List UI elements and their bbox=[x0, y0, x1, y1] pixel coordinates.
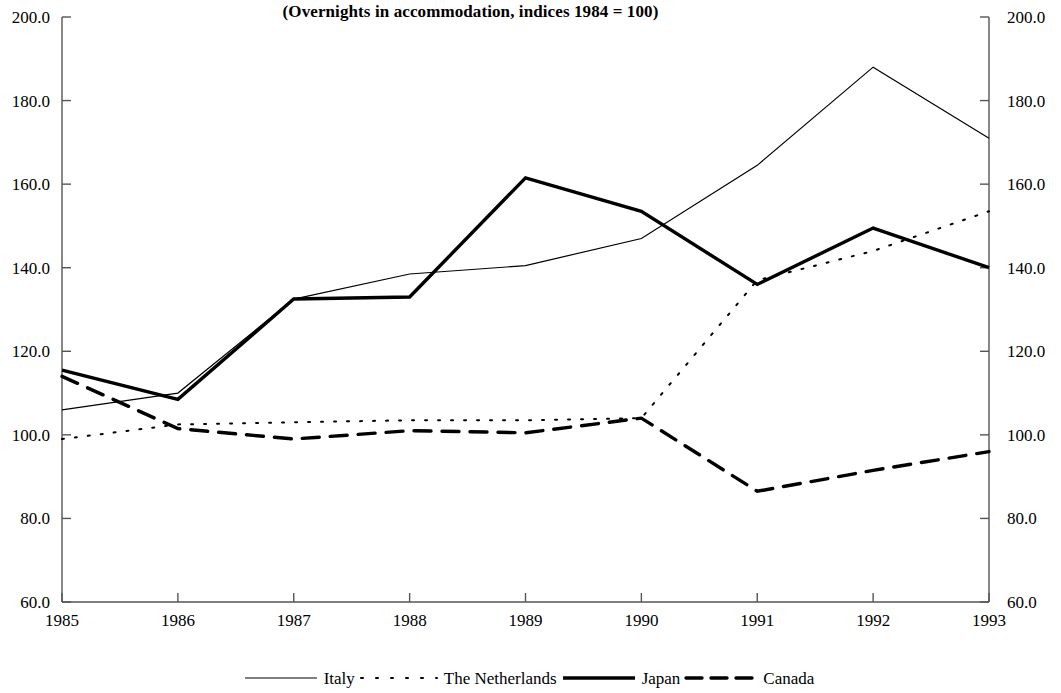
series-line-japan bbox=[62, 178, 989, 399]
x-axis-labels: 198519861987198819891990199119921993 bbox=[0, 612, 1061, 642]
y-tick-label-right: 160.0 bbox=[1007, 176, 1045, 193]
legend-swatch-dotted bbox=[359, 671, 439, 685]
y-tick-label-left: 120.0 bbox=[12, 343, 50, 360]
x-tick-label: 1988 bbox=[393, 612, 427, 629]
plot-area bbox=[62, 17, 989, 602]
legend-label: Italy bbox=[319, 670, 359, 687]
series-line-canada bbox=[62, 376, 989, 491]
y-tick-label-left: 80.0 bbox=[20, 510, 50, 527]
axes-group bbox=[62, 17, 989, 602]
legend-swatch-thin-solid bbox=[243, 671, 319, 685]
y-tick-label-right: 100.0 bbox=[1007, 426, 1045, 443]
x-tick-label: 1985 bbox=[45, 612, 79, 629]
y-tick-label-right: 200.0 bbox=[1007, 9, 1045, 26]
x-tick-label: 1986 bbox=[161, 612, 195, 629]
series-group bbox=[62, 67, 989, 491]
y-tick-label-left: 180.0 bbox=[12, 92, 50, 109]
y-axis-labels-right: 60.080.0100.0120.0140.0160.0180.0200.0 bbox=[997, 17, 1057, 602]
legend-swatch-thick-solid bbox=[561, 671, 637, 685]
y-tick-label-left: 160.0 bbox=[12, 176, 50, 193]
x-tick-label: 1990 bbox=[624, 612, 658, 629]
y-tick-label-left: 140.0 bbox=[12, 259, 50, 276]
legend-label: Canada bbox=[758, 670, 818, 687]
legend-item-japan[interactable]: Japan bbox=[561, 670, 685, 687]
y-tick-label-right: 80.0 bbox=[1007, 510, 1037, 527]
x-tick-label: 1992 bbox=[856, 612, 890, 629]
x-tick-label: 1991 bbox=[740, 612, 774, 629]
legend-item-the-netherlands[interactable]: The Netherlands bbox=[359, 670, 561, 687]
legend-label: Japan bbox=[637, 670, 685, 687]
legend-label: The Netherlands bbox=[439, 670, 561, 687]
x-tick-label: 1989 bbox=[509, 612, 543, 629]
y-axis-labels-left: 60.080.0100.0120.0140.0160.0180.0200.0 bbox=[0, 17, 56, 602]
plot-svg bbox=[62, 17, 989, 602]
y-tick-label-left: 100.0 bbox=[12, 426, 50, 443]
y-tick-label-right: 60.0 bbox=[1007, 594, 1037, 611]
y-tick-label-right: 180.0 bbox=[1007, 92, 1045, 109]
x-tick-label: 1987 bbox=[277, 612, 311, 629]
legend-item-italy[interactable]: Italy bbox=[243, 670, 359, 687]
y-tick-label-left: 200.0 bbox=[12, 9, 50, 26]
y-tick-label-left: 60.0 bbox=[20, 594, 50, 611]
y-tick-label-right: 140.0 bbox=[1007, 259, 1045, 276]
y-tick-label-right: 120.0 bbox=[1007, 343, 1045, 360]
chart-figure: { "title": "(Overnights in accommodation… bbox=[0, 0, 1061, 693]
legend-item-canada[interactable]: Canada bbox=[684, 670, 818, 687]
chart-legend: ItalyThe NetherlandsJapanCanada bbox=[0, 664, 1061, 692]
series-line-the-netherlands bbox=[62, 211, 989, 439]
legend-swatch-thick-dashed bbox=[684, 671, 758, 685]
x-tick-label: 1993 bbox=[972, 612, 1006, 629]
